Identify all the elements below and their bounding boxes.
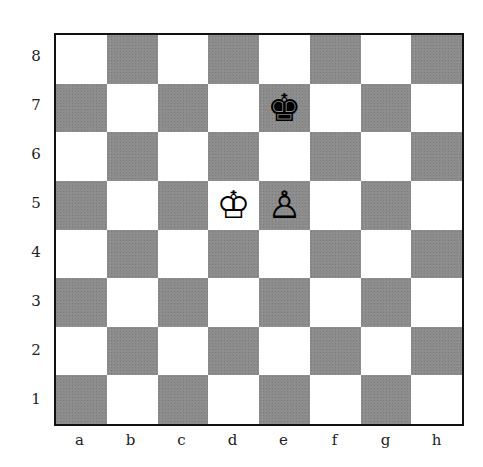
square-b6[interactable]	[107, 132, 158, 181]
square-c3[interactable]	[158, 278, 209, 327]
square-c5[interactable]	[158, 181, 209, 230]
square-b1[interactable]	[107, 375, 158, 424]
file-label-b: b	[106, 431, 156, 449]
square-f4[interactable]	[310, 230, 361, 279]
square-b7[interactable]	[107, 84, 158, 133]
square-g6[interactable]	[361, 132, 412, 181]
square-a8[interactable]	[56, 35, 107, 84]
black-king-icon[interactable]: ♚	[267, 89, 301, 127]
square-a2[interactable]	[56, 327, 107, 376]
square-a7[interactable]	[56, 84, 107, 133]
rank-label-4: 4	[28, 243, 44, 261]
square-e4[interactable]	[259, 230, 310, 279]
square-f1[interactable]	[310, 375, 361, 424]
square-d4[interactable]	[208, 230, 259, 279]
square-c1[interactable]	[158, 375, 209, 424]
square-h4[interactable]	[411, 230, 462, 279]
file-label-g: g	[361, 431, 411, 449]
square-c8[interactable]	[158, 35, 209, 84]
square-d6[interactable]	[208, 132, 259, 181]
square-g5[interactable]	[361, 181, 412, 230]
square-f3[interactable]	[310, 278, 361, 327]
file-label-h: h	[412, 431, 462, 449]
square-e1[interactable]	[259, 375, 310, 424]
square-a1[interactable]	[56, 375, 107, 424]
rank-label-2: 2	[28, 341, 44, 359]
square-a5[interactable]	[56, 181, 107, 230]
square-f5[interactable]	[310, 181, 361, 230]
square-f6[interactable]	[310, 132, 361, 181]
square-f8[interactable]	[310, 35, 361, 84]
square-h8[interactable]	[411, 35, 462, 84]
square-a3[interactable]	[56, 278, 107, 327]
rank-label-5: 5	[28, 194, 44, 212]
rank-label-3: 3	[28, 292, 44, 310]
square-b8[interactable]	[107, 35, 158, 84]
square-h2[interactable]	[411, 327, 462, 376]
square-b5[interactable]	[107, 181, 158, 230]
square-f7[interactable]	[310, 84, 361, 133]
square-d8[interactable]	[208, 35, 259, 84]
file-label-e: e	[259, 431, 309, 449]
file-label-c: c	[157, 431, 207, 449]
square-b4[interactable]	[107, 230, 158, 279]
square-c4[interactable]	[158, 230, 209, 279]
square-g4[interactable]	[361, 230, 412, 279]
square-a4[interactable]	[56, 230, 107, 279]
square-e3[interactable]	[259, 278, 310, 327]
square-h1[interactable]	[411, 375, 462, 424]
square-c7[interactable]	[158, 84, 209, 133]
square-d2[interactable]	[208, 327, 259, 376]
square-h5[interactable]	[411, 181, 462, 230]
square-d1[interactable]	[208, 375, 259, 424]
square-c6[interactable]	[158, 132, 209, 181]
square-e6[interactable]	[259, 132, 310, 181]
square-d7[interactable]	[208, 84, 259, 133]
square-e7[interactable]: ♚	[259, 84, 310, 133]
white-king-icon[interactable]: ♔	[217, 186, 251, 224]
square-c2[interactable]	[158, 327, 209, 376]
square-b2[interactable]	[107, 327, 158, 376]
square-a6[interactable]	[56, 132, 107, 181]
square-g2[interactable]	[361, 327, 412, 376]
square-e2[interactable]	[259, 327, 310, 376]
file-label-f: f	[310, 431, 360, 449]
square-h6[interactable]	[411, 132, 462, 181]
square-b3[interactable]	[107, 278, 158, 327]
square-e5[interactable]: ♙	[259, 181, 310, 230]
square-g8[interactable]	[361, 35, 412, 84]
square-h3[interactable]	[411, 278, 462, 327]
rank-label-7: 7	[28, 96, 44, 114]
rank-label-8: 8	[28, 47, 44, 65]
rank-label-1: 1	[28, 390, 44, 408]
square-e8[interactable]	[259, 35, 310, 84]
rank-label-6: 6	[28, 145, 44, 163]
square-f2[interactable]	[310, 327, 361, 376]
square-d3[interactable]	[208, 278, 259, 327]
square-g7[interactable]	[361, 84, 412, 133]
file-label-d: d	[208, 431, 258, 449]
file-label-a: a	[55, 431, 105, 449]
square-h7[interactable]	[411, 84, 462, 133]
square-g1[interactable]	[361, 375, 412, 424]
square-d5[interactable]: ♔	[208, 181, 259, 230]
chess-board: ♚♔♙	[54, 33, 464, 426]
white-pawn-icon[interactable]: ♙	[267, 186, 301, 224]
square-g3[interactable]	[361, 278, 412, 327]
